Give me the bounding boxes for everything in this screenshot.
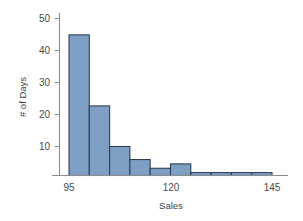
bar-bin-4 [150,168,170,175]
y-tick-label-20: 20 [39,109,51,120]
x-axis-title: Sales [159,200,183,211]
x-tick-label-145: 145 [264,182,281,193]
y-tick-label-40: 40 [39,45,51,56]
y-tick-label-30: 30 [39,77,51,88]
x-tick-label-95: 95 [63,182,75,193]
x-tick-label-120: 120 [163,182,180,193]
bar-bin-1 [89,106,109,176]
y-axis-title: # of Days [17,77,28,117]
histogram-svg: 50 40 30 20 10 # of Days 95 120 145 Sale… [0,0,303,221]
bar-bin-5 [171,164,191,176]
bar-bin-2 [110,147,130,176]
bar-bin-0 [69,35,89,176]
histogram-figure: 50 40 30 20 10 # of Days 95 120 145 Sale… [0,0,303,221]
bar-bin-3 [130,160,150,176]
y-tick-label-50: 50 [39,13,51,24]
y-tick-label-10: 10 [39,141,51,152]
